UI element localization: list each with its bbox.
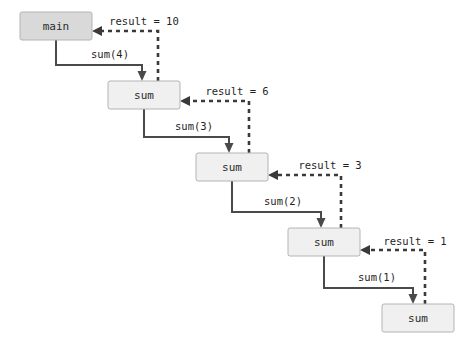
call-edge-sum-4-label: sum(4) — [91, 48, 129, 60]
return-edge-result-1: result = 1 — [360, 235, 447, 304]
nodes-group: main sum sum sum sum — [20, 12, 454, 332]
diagram-canvas: sum(4) sum(3) sum(2) sum(1) — [0, 0, 462, 347]
node-sum-3[interactable]: sum — [288, 228, 360, 256]
return-edge-result-3: result = 3 — [268, 159, 362, 228]
return-edge-result-3-label: result = 3 — [298, 159, 361, 171]
call-edge-sum-3: sum(3) — [144, 109, 234, 153]
return-edge-result-10-arrowhead — [92, 26, 102, 36]
node-sum-4[interactable]: sum — [382, 304, 454, 332]
call-edge-sum-4: sum(4) — [56, 40, 147, 81]
return-edge-result-1-label: result = 1 — [383, 235, 446, 247]
call-edge-sum-2-label: sum(2) — [264, 195, 302, 207]
call-edge-sum-1: sum(1) — [324, 256, 418, 304]
node-main-label: main — [43, 20, 70, 33]
node-sum-1[interactable]: sum — [108, 81, 180, 109]
node-sum-3-label: sum — [314, 236, 334, 249]
call-edge-sum-3-label: sum(3) — [175, 120, 213, 132]
return-edge-result-1-arrowhead — [360, 245, 370, 255]
call-edge-sum-1-label: sum(1) — [358, 271, 396, 283]
node-sum-2-label: sum — [222, 161, 242, 174]
return-edge-result-3-arrowhead — [268, 170, 278, 180]
call-edge-sum-4-arrowhead — [138, 71, 147, 81]
node-sum-1-label: sum — [134, 89, 154, 102]
recursion-call-stack-diagram: sum(4) sum(3) sum(2) sum(1) — [0, 0, 462, 347]
call-edge-sum-1-arrowhead — [409, 294, 418, 304]
call-edge-sum-2: sum(2) — [232, 181, 326, 228]
node-main[interactable]: main — [20, 12, 92, 40]
node-sum-4-label: sum — [408, 312, 428, 325]
return-edge-result-6: result = 6 — [180, 85, 269, 153]
return-edges-group: result = 10 result = 6 result = 3 result… — [92, 15, 447, 304]
call-edge-sum-3-arrowhead — [225, 143, 234, 153]
node-sum-2[interactable]: sum — [196, 153, 268, 181]
return-edge-result-6-arrowhead — [180, 96, 190, 106]
call-edge-sum-2-arrowhead — [317, 218, 326, 228]
return-edge-result-10-label: result = 10 — [109, 15, 179, 27]
return-edge-result-6-label: result = 6 — [205, 85, 268, 97]
